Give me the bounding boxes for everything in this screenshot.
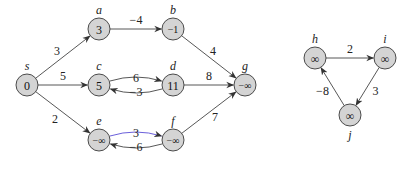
node-distance-value: −∞ xyxy=(93,135,106,146)
node-distance-value: ∞ xyxy=(381,52,390,66)
edge-weight-d-g: 8 xyxy=(206,69,212,83)
node-name-label: c xyxy=(96,59,102,73)
node-distance-value: 11 xyxy=(167,79,179,93)
edge-weight-j-h: −8 xyxy=(316,84,329,98)
node-b: −1b xyxy=(162,3,184,40)
node-j: ∞j xyxy=(339,104,361,142)
edge-weight-c-d: 6 xyxy=(133,71,139,85)
node-i: ∞i xyxy=(374,32,396,69)
node-a: 3a xyxy=(88,3,110,40)
edge-weight-f-g: 7 xyxy=(212,110,218,124)
edges-layer: 352−446−383−6723−8 xyxy=(36,13,380,154)
edge-f-to-g xyxy=(182,92,236,133)
edge-weight-a-b: −4 xyxy=(130,13,143,27)
shortest-paths-diagram: 352−446−383−6723−8 0s3a−1b5c11d−∞e−∞f−∞g… xyxy=(0,0,420,170)
edge-weight-e-f: 3 xyxy=(133,126,139,140)
edge-weight-b-g: 4 xyxy=(210,44,216,58)
node-s: 0s xyxy=(16,59,38,96)
node-name-label: b xyxy=(170,3,176,17)
node-g: −∞g xyxy=(234,59,256,96)
node-distance-value: 5 xyxy=(96,79,102,93)
node-distance-value: 0 xyxy=(24,79,30,93)
node-name-label: i xyxy=(383,32,386,46)
edge-weight-d-c: −3 xyxy=(130,85,143,99)
node-distance-value: −1 xyxy=(168,24,179,35)
node-name-label: e xyxy=(96,114,102,128)
node-name-label: d xyxy=(170,59,177,73)
edge-weight-f-e: −6 xyxy=(130,140,143,154)
node-name-label: a xyxy=(96,3,102,17)
edge-s-to-e xyxy=(36,92,90,133)
node-distance-value: 3 xyxy=(96,23,102,37)
node-name-label: g xyxy=(242,59,248,73)
node-name-label: f xyxy=(171,114,176,128)
node-distance-value: −∞ xyxy=(239,80,252,91)
edge-weight-h-i: 2 xyxy=(347,42,353,56)
edge-weight-i-j: 3 xyxy=(373,84,379,98)
node-distance-value: ∞ xyxy=(346,109,355,123)
edge-weight-s-e: 2 xyxy=(52,112,58,126)
node-name-label: s xyxy=(25,59,30,73)
edge-weight-s-a: 3 xyxy=(54,44,60,58)
node-c: 5c xyxy=(88,59,110,96)
node-e: −∞e xyxy=(88,114,110,151)
node-h: ∞h xyxy=(304,32,326,69)
node-distance-value: ∞ xyxy=(311,52,320,66)
node-name-label: h xyxy=(312,32,318,46)
node-f: −∞f xyxy=(162,114,184,151)
node-d: 11d xyxy=(162,59,184,96)
edge-weight-s-c: 5 xyxy=(60,69,66,83)
node-distance-value: −∞ xyxy=(167,135,180,146)
node-name-label: j xyxy=(346,128,352,142)
